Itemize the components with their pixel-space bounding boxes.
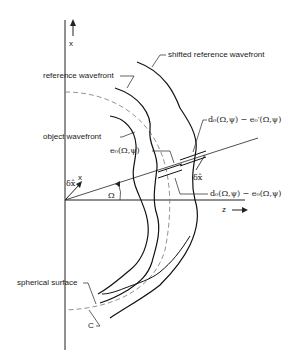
omega-arc-arrow: [115, 181, 120, 187]
leader-d0-e0: [175, 178, 208, 194]
shifted-reference-wavefront-label: shifted reference wavefront: [168, 51, 265, 59]
object-wavefront-curve: [98, 116, 148, 294]
leader-spherical: [83, 283, 96, 304]
spherical-surface-label: spherical surface: [17, 279, 77, 287]
d0-minus-e0-label: d₀(Ω,ψ) − e₀(Ω,ψ): [210, 190, 281, 198]
leader-object: [120, 132, 135, 137]
leader-shifted-ref: [152, 55, 166, 67]
x-arrow-head: [70, 19, 76, 26]
x-axis-label: x: [69, 40, 73, 48]
unit-vector-label: δx̂: [66, 180, 75, 188]
omega-label: Ω: [108, 192, 115, 200]
shifted-reference-wavefront-curve: [110, 62, 197, 318]
z-axis-label: z: [222, 206, 226, 214]
unit-vector-axis-label: x: [78, 174, 82, 182]
delta-x-hat-label: δx̂: [193, 174, 202, 182]
d0-minus-e0prime-label: d₀(Ω,ψ) − e₀′(Ω,ψ): [208, 116, 281, 124]
z-arrow-head: [242, 207, 248, 213]
e0-label: e₀(Ω,ψ): [110, 147, 140, 155]
reference-wavefront-label: reference wavefront: [43, 72, 114, 80]
leader-ref: [120, 76, 134, 88]
c-label: C: [88, 322, 94, 330]
object-wavefront-label: object wavefront: [43, 133, 101, 141]
